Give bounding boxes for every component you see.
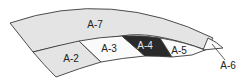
label-a5: A-5 — [171, 45, 187, 56]
label-a3: A-3 — [101, 43, 117, 54]
label-a2: A-2 — [63, 53, 79, 64]
segment-diagram: A-7 A-2 A-3 A-4 A-5 A-6 — [0, 0, 246, 81]
label-a6: A-6 — [220, 60, 236, 71]
label-a4: A-4 — [137, 40, 153, 51]
curved-band-diagram: A-7 A-2 A-3 A-4 A-5 A-6 — [0, 0, 246, 81]
label-a7: A-7 — [87, 19, 103, 30]
